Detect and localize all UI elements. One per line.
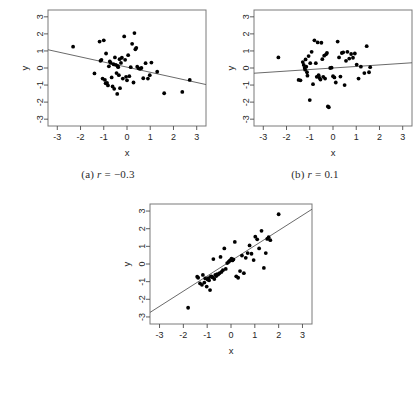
svg-text:-1: -1 [306, 132, 314, 142]
svg-text:-2: -2 [241, 98, 251, 106]
svg-text:-1: -1 [137, 278, 147, 286]
svg-text:-3: -3 [35, 115, 45, 123]
svg-text:2: 2 [241, 31, 251, 36]
svg-text:-3: -3 [53, 132, 61, 142]
panel-c: -3-2-10123-3-2-10123xy (c) r = 0.8 [106, 196, 318, 392]
svg-text:1: 1 [252, 330, 257, 340]
svg-text:-3: -3 [156, 330, 164, 340]
svg-text:-2: -2 [77, 132, 85, 142]
svg-text:-1: -1 [35, 81, 45, 89]
svg-text:x: x [331, 147, 336, 158]
svg-text:y: y [225, 65, 236, 70]
svg-text:y: y [121, 261, 132, 266]
svg-text:-3: -3 [259, 132, 267, 142]
svg-text:0: 0 [35, 65, 45, 70]
svg-text:2: 2 [276, 330, 281, 340]
svg-text:-2: -2 [35, 98, 45, 106]
svg-text:2: 2 [171, 132, 176, 142]
svg-text:-2: -2 [179, 330, 187, 340]
svg-text:3: 3 [400, 132, 405, 142]
panel-b: -3-2-10123-3-2-10123xy (b) r = 0.1 [212, 2, 418, 190]
svg-text:x: x [229, 345, 234, 356]
svg-text:0: 0 [228, 330, 233, 340]
svg-text:0: 0 [330, 132, 335, 142]
svg-text:x: x [125, 147, 130, 158]
svg-text:3: 3 [137, 209, 147, 214]
svg-text:-3: -3 [241, 115, 251, 123]
svg-text:-3: -3 [137, 313, 147, 321]
panel-b-caption-var: r [308, 168, 312, 180]
panel-a-caption-value: = −0.3 [105, 168, 135, 180]
panel-a: -3-2-10123-3-2-10123xy (a) r = −0.3 [4, 2, 212, 190]
svg-text:1: 1 [148, 132, 153, 142]
svg-text:1: 1 [241, 48, 251, 53]
svg-text:y: y [19, 65, 30, 70]
scatter-plot-c: -3-2-10123-3-2-10123xy [106, 196, 318, 368]
panel-a-caption-var: r [97, 168, 101, 180]
svg-text:3: 3 [194, 132, 199, 142]
panel-a-caption-label: (a) [81, 168, 94, 180]
panel-b-caption-value: = 0.1 [315, 168, 339, 180]
svg-text:-1: -1 [203, 330, 211, 340]
scatter-plot-b: -3-2-10123-3-2-10123xy [212, 2, 418, 168]
svg-text:3: 3 [241, 14, 251, 19]
svg-text:2: 2 [377, 132, 382, 142]
panel-a-caption: (a) r = −0.3 [4, 168, 212, 180]
panel-b-caption-label: (b) [291, 168, 304, 180]
panel-b-caption: (b) r = 0.1 [212, 168, 418, 180]
svg-text:2: 2 [35, 31, 45, 36]
svg-text:-2: -2 [283, 132, 291, 142]
svg-text:0: 0 [124, 132, 129, 142]
scatter-plot-a: -3-2-10123-3-2-10123xy [4, 2, 212, 168]
svg-text:2: 2 [137, 226, 147, 231]
panel-b-plot: -3-2-10123-3-2-10123xy [212, 2, 418, 168]
svg-text:-2: -2 [137, 295, 147, 303]
svg-text:-1: -1 [241, 81, 251, 89]
svg-text:3: 3 [35, 14, 45, 19]
correlation-figure: -3-2-10123-3-2-10123xy (a) r = −0.3 -3-2… [0, 0, 418, 393]
svg-text:0: 0 [137, 261, 147, 266]
panel-a-plot: -3-2-10123-3-2-10123xy [4, 2, 212, 168]
svg-text:3: 3 [300, 330, 305, 340]
svg-text:0: 0 [241, 65, 251, 70]
svg-text:1: 1 [35, 48, 45, 53]
panel-c-plot: -3-2-10123-3-2-10123xy [106, 196, 318, 368]
svg-text:1: 1 [137, 244, 147, 249]
svg-text:-1: -1 [100, 132, 108, 142]
svg-text:1: 1 [354, 132, 359, 142]
